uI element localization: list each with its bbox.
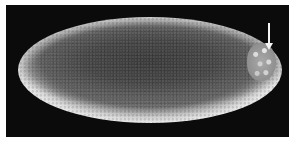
micrograph-frame (6, 5, 289, 137)
arrow-head-icon (265, 43, 273, 50)
embryo (18, 17, 282, 123)
embryo-surface-texture (18, 17, 282, 123)
arrow-icon (268, 23, 270, 45)
